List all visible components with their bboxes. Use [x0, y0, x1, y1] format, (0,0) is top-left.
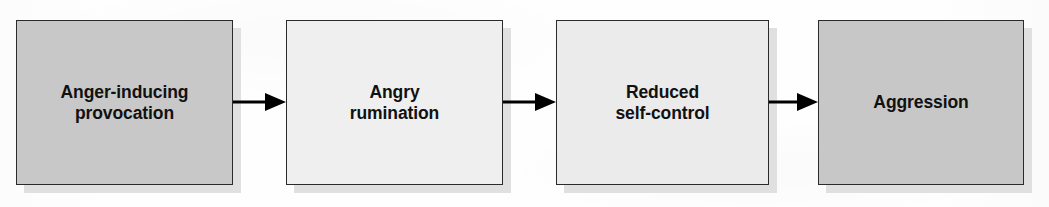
flow-arrow-self-control-to-aggression — [769, 91, 818, 113]
flow-node-label-aggression: Aggression — [867, 92, 974, 112]
flow-node-label-rumination: Angry rumination — [344, 82, 445, 123]
flow-arrow-rumination-to-self-control — [503, 91, 556, 113]
flow-node-aggression[interactable]: Aggression — [818, 20, 1024, 185]
flow-node-provocation[interactable]: Anger-inducing provocation — [16, 20, 233, 185]
flow-node-label-self-control: Reduced self-control — [609, 82, 715, 123]
flow-node-label-provocation: Anger-inducing provocation — [55, 82, 195, 123]
flow-node-self-control[interactable]: Reduced self-control — [556, 20, 769, 185]
flow-diagram: and how to describe a brief look at the … — [0, 0, 1049, 207]
flow-node-rumination[interactable]: Angry rumination — [286, 20, 503, 185]
flow-arrow-provocation-to-rumination — [233, 91, 286, 113]
